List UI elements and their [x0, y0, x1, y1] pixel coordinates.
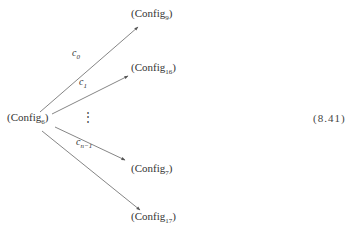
edge-to-config9: [40, 27, 138, 112]
edge-label-c0: c0: [72, 47, 80, 61]
edge-label-c1: c1: [79, 76, 87, 90]
target-node-config17: (Config17): [131, 210, 176, 225]
edge-label-cn-1: cn−1: [76, 136, 92, 150]
source-node: (Config6): [7, 111, 48, 126]
edge-to-config16: [52, 76, 128, 114]
target-node-config7: (Config7): [131, 162, 172, 177]
edges-layer: [0, 0, 359, 231]
ellipsis: ⋮: [82, 111, 94, 123]
target-node-config16: (Config16): [131, 61, 176, 76]
target-node-config9: (Config9): [131, 7, 172, 22]
equation-number: (8.41): [313, 112, 346, 124]
